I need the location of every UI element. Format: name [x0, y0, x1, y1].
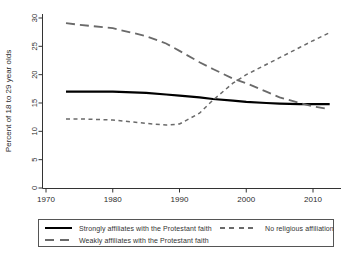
series-line-2 [66, 33, 330, 125]
y-tick-label: 0 [30, 186, 39, 190]
legend-box: Strongly affiliates with the Protestant … [38, 219, 334, 247]
legend-entry-strongly: Strongly affiliates with the Protestant … [45, 223, 212, 233]
x-tick-label: 1990 [171, 195, 189, 204]
y-tick-label: 30 [30, 14, 39, 22]
series-line-0 [66, 92, 330, 104]
x-tick-label: 1980 [104, 195, 122, 204]
y-tick-label: 15 [30, 99, 39, 107]
y-tick-label: 25 [30, 42, 39, 50]
solid-line-sample [45, 227, 72, 229]
short-dash-line-sample [220, 227, 258, 229]
chart: 05101520253019701980199020002010Percent … [0, 0, 346, 215]
y-tick-label: 20 [30, 70, 39, 78]
line-chart-figure: 05101520253019701980199020002010Percent … [0, 0, 346, 259]
legend-entry-weakly: Weakly affiliates with the Protestant fa… [45, 235, 209, 245]
legend-label-strongly: Strongly affiliates with the Protestant … [79, 225, 212, 232]
legend-label-none: No religious affiliation [265, 225, 334, 232]
legend-entry-none: No religious affiliation [220, 223, 334, 233]
y-tick-label: 10 [30, 127, 39, 135]
y-axis-title: Percent of 18 to 29 year olds [4, 50, 13, 152]
axes: 05101520253019701980199020002010 [30, 14, 341, 204]
x-tick-label: 2010 [304, 195, 322, 204]
x-tick-label: 2000 [237, 195, 255, 204]
y-tick-label: 5 [30, 158, 39, 162]
long-dash-line-sample [45, 239, 72, 241]
legend-label-weakly: Weakly affiliates with the Protestant fa… [79, 237, 209, 244]
x-tick-label: 1970 [37, 195, 55, 204]
